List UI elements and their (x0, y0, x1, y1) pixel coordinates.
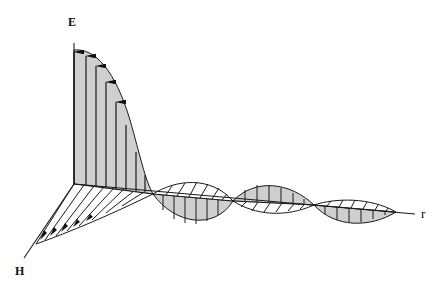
e-axis-label: E (68, 15, 76, 30)
e-field-main-lobe (74, 50, 153, 194)
r-axis-label: r (421, 206, 425, 222)
wave-lobe-2 (153, 182, 233, 224)
em-wave-diagram (0, 0, 448, 287)
h-axis-label: H (15, 264, 24, 279)
